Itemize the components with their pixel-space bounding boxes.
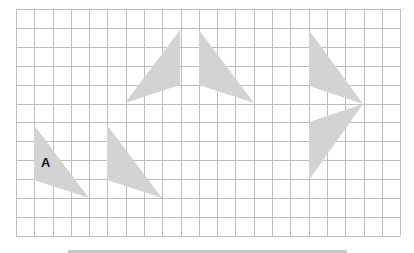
grid-diagram: A <box>0 0 414 253</box>
triangle-b <box>107 125 162 198</box>
shape-label-a: A <box>41 155 51 170</box>
triangle-shapes <box>34 30 363 198</box>
